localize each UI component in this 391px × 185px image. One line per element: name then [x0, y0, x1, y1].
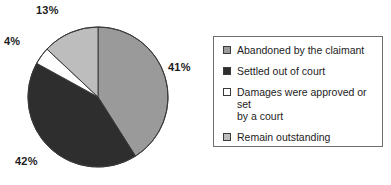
pie-slice-group — [28, 27, 168, 167]
pie-chart-figure: 41% 42% 4% 13% Abandoned by the claimant… — [0, 0, 391, 185]
pie-chart-plot-area: 41% 42% 4% 13% — [0, 0, 205, 185]
chart-legend: Abandoned by the claimantSettled out of … — [213, 36, 383, 147]
legend-swatch-outstanding — [223, 133, 231, 141]
legend-item-label: Remain outstanding — [237, 131, 330, 143]
legend-item[interactable]: Settled out of court — [223, 65, 376, 77]
pie-slice-label-damages: 4% — [4, 36, 20, 47]
legend-item[interactable]: Remain outstanding — [223, 131, 376, 143]
pie-slice-label-outstanding: 13% — [36, 5, 59, 16]
legend-item-label: Abandoned by the claimant — [237, 44, 364, 56]
legend-item-label: Settled out of court — [237, 65, 325, 77]
pie-slice-label-settled: 42% — [15, 156, 38, 167]
pie-slice-label-abandoned: 41% — [168, 62, 191, 73]
legend-swatch-settled — [223, 67, 231, 75]
legend-swatch-damages — [223, 88, 231, 96]
legend-item-label: Damages were approved or set by a court — [237, 86, 376, 122]
legend-swatch-abandoned — [223, 46, 231, 54]
legend-item[interactable]: Damages were approved or set by a court — [223, 86, 376, 122]
legend-item[interactable]: Abandoned by the claimant — [223, 44, 376, 56]
